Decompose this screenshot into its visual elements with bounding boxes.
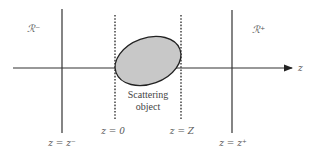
z-axis-label: z <box>297 63 303 73</box>
label-z-Z: z = Z <box>169 126 195 136</box>
object-caption-line1: Scattering <box>128 89 169 100</box>
region-minus-label: ℛ⁻ <box>27 23 40 34</box>
region-plus-label: ℛ⁺ <box>252 24 265 35</box>
label-z-plus: z = z⁺ <box>218 138 247 148</box>
scattering-diagram: z ℛ⁻ ℛ⁺ Scattering object z = z⁻ z = 0 z… <box>0 0 310 153</box>
label-z-minus: z = z⁻ <box>47 138 76 148</box>
label-z-zero: z = 0 <box>100 126 125 136</box>
scattering-object <box>108 28 188 94</box>
object-caption-line2: object <box>136 101 161 112</box>
